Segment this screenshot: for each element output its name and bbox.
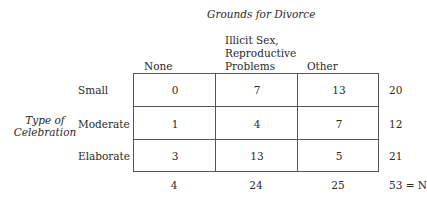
table-cell: 1 (134, 118, 216, 130)
row-label-small: Small (78, 84, 108, 96)
column-total: 24 (215, 179, 297, 191)
table-cell: 4 (216, 118, 298, 130)
row-label-moderate: Moderate (78, 118, 130, 130)
column-header-none: None (144, 60, 173, 72)
table-cell: 7 (216, 84, 298, 96)
table-cell: 13 (298, 84, 380, 96)
column-total: 25 (297, 179, 379, 191)
grand-total: 53 = N (389, 179, 427, 191)
contingency-grid: 0 7 13 1 4 7 3 13 5 (133, 73, 379, 172)
row-total: 20 (389, 84, 402, 96)
table-cell: 13 (216, 150, 298, 162)
row-total: 12 (389, 118, 402, 130)
grid-divider (134, 139, 378, 140)
row-total: 21 (389, 150, 402, 162)
column-total: 4 (133, 179, 215, 191)
table-cell: 7 (298, 118, 380, 130)
table-cell: 5 (298, 150, 380, 162)
table-cell: 3 (134, 150, 216, 162)
column-header-other: Other (307, 60, 338, 72)
grid-divider (134, 106, 378, 107)
row-label-elaborate: Elaborate (78, 150, 130, 162)
table-cell: 0 (134, 84, 216, 96)
table-title: Grounds for Divorce (207, 8, 315, 20)
